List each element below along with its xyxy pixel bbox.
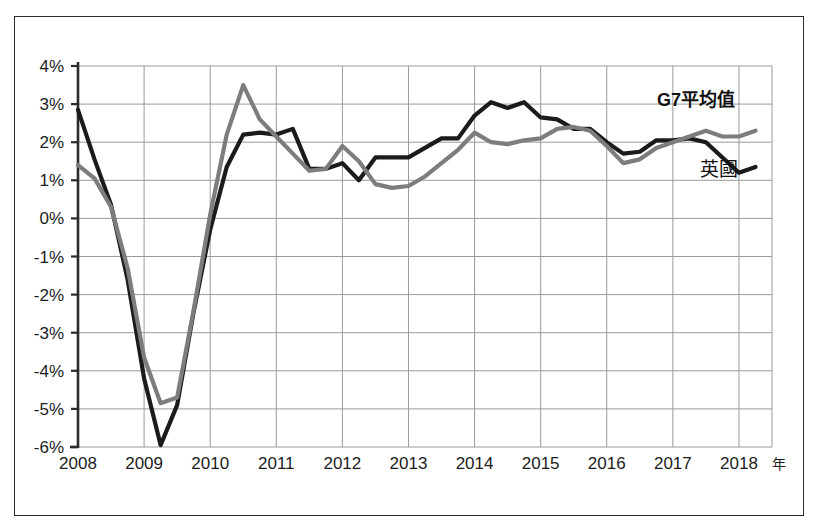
y-axis-tick-label: 4% [39,57,64,76]
series-label-g7: G7平均值 [657,89,735,110]
x-axis-unit-label-text: 年 [772,456,786,472]
x-axis-tick-label: 2009 [125,454,163,473]
data-series-lines [78,85,755,445]
y-axis-tick-label: -3% [34,324,64,343]
x-axis-tick-label: 2018 [720,454,758,473]
x-axis-tick-label: 2014 [456,454,494,473]
x-axis-tick-label: 2010 [191,454,229,473]
y-axis-tick-label: 1% [39,171,64,190]
x-axis-tick-label: 2016 [588,454,626,473]
line-chart: 4%3%2%1%0%-1%-2%-3%-4%-5%-6% 20082009201… [0,0,821,532]
y-axis-tick-label: 2% [39,133,64,152]
axis-lines [70,62,78,448]
x-axis-tick-label: 2015 [522,454,560,473]
y-axis-tick-label: 3% [39,95,64,114]
series-label-uk: 英國 [700,159,738,180]
series-line-g7 [78,85,755,403]
y-axis-tick-label: 0% [39,209,64,228]
x-axis-tick-label: 2012 [323,454,361,473]
horizontal-gridlines [78,66,772,447]
y-axis-tick-labels: 4%3%2%1%0%-1%-2%-3%-4%-5%-6% [34,57,64,457]
x-axis-tick-label: 2008 [59,454,97,473]
x-axis-tick-label: 2017 [654,454,692,473]
x-axis-tick-label: 2013 [390,454,428,473]
x-axis-unit-label: 年 [772,456,786,472]
x-axis-tick-labels: 2008200920102011201220132014201520162017… [59,454,758,473]
y-axis-tick-label: -5% [34,400,64,419]
y-axis-tick-label: -2% [34,286,64,305]
y-axis-tick-label: -4% [34,362,64,381]
y-axis-tick-label: -1% [34,248,64,267]
x-axis-tick-label: 2011 [258,454,295,473]
